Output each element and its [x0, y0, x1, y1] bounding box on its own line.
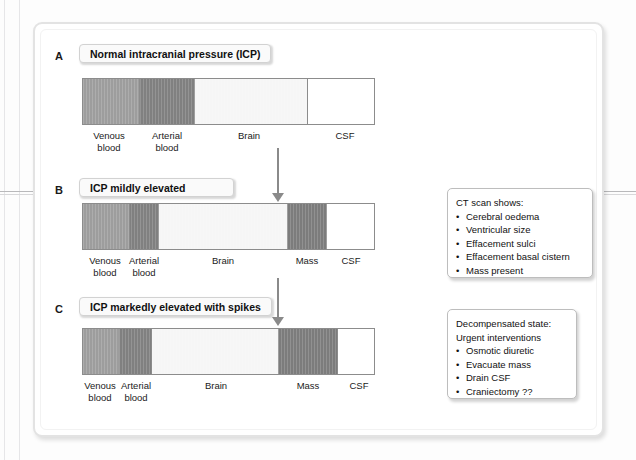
segment-csf-b	[326, 204, 374, 249]
segment-csf-c	[337, 329, 374, 374]
note-box-ct-findings: CT scan shows: Cerebral oedema Ventricul…	[447, 188, 593, 278]
segment-mass-b	[287, 204, 327, 249]
segment-label-csf-c: CSF	[350, 380, 369, 392]
note-box-decompensated-management: Decompensated state: Urgent intervention…	[447, 309, 577, 399]
arrow-head-icon	[272, 317, 284, 326]
arrow-head-icon	[272, 193, 284, 202]
note-line: Urgent interventions	[456, 331, 567, 345]
segment-label-venous-b: Venous blood	[89, 255, 121, 278]
note-line: Effacement basal cistern	[456, 250, 583, 264]
panel-title-a: Normal intracranial pressure (ICP)	[79, 44, 271, 63]
panel-letter-a: A	[55, 50, 63, 62]
panel-title-b: ICP mildly elevated	[79, 178, 234, 197]
segment-venous-a	[83, 79, 139, 124]
compartment-bar-c	[82, 328, 375, 375]
note-line: CT scan shows:	[456, 196, 583, 210]
panel-letter-c: C	[55, 303, 63, 315]
segment-arterial-b	[129, 204, 159, 249]
segment-arterial-a	[139, 79, 194, 124]
scan-artifact-line	[4, 0, 5, 460]
arrow-b-to-c	[272, 278, 284, 326]
panel-letter-b: B	[55, 184, 63, 196]
note-line: Ventricular size	[456, 223, 583, 237]
segment-brain-c	[151, 329, 278, 374]
panel-title-c: ICP markedly elevated with spikes	[79, 297, 272, 316]
note-line: Osmotic diuretic	[456, 344, 567, 358]
segment-label-arterial-b: Arterial blood	[129, 255, 159, 278]
compartment-bar-b	[82, 203, 375, 250]
segment-venous-b	[83, 204, 129, 249]
segment-label-mass-c: Mass	[297, 380, 320, 392]
segment-csf-a	[307, 79, 374, 124]
note-line: Cerebral oedema	[456, 210, 583, 224]
segment-label-mass-b: Mass	[296, 255, 319, 267]
segment-label-brain-b: Brain	[212, 255, 234, 267]
segment-label-venous-c: Venous blood	[84, 380, 116, 403]
note-line: Craniectomy ??	[456, 385, 567, 399]
arrow-shaft	[277, 278, 279, 318]
segment-label-venous-a: Venous blood	[93, 130, 125, 153]
segment-label-arterial-a: Arterial blood	[152, 130, 182, 153]
arrow-shaft	[277, 148, 279, 194]
segment-label-arterial-c: Arterial blood	[121, 380, 151, 403]
note-line: Drain CSF	[456, 371, 567, 385]
note-line: Evacuate mass	[456, 358, 567, 372]
segment-mass-c	[278, 329, 338, 374]
note-line: Mass present	[456, 264, 583, 278]
note-line: Effacement sulci	[456, 237, 583, 251]
segment-brain-a	[194, 79, 307, 124]
segment-label-csf-b: CSF	[342, 255, 361, 267]
segment-label-brain-c: Brain	[205, 380, 227, 392]
segment-label-csf-a: CSF	[336, 130, 355, 142]
compartment-bar-a	[82, 78, 375, 125]
arrow-a-to-b	[272, 148, 284, 202]
segment-venous-c	[83, 329, 119, 374]
segment-label-brain-a: Brain	[238, 130, 260, 142]
note-line: Decompensated state:	[456, 317, 567, 331]
segment-brain-b	[158, 204, 286, 249]
segment-arterial-c	[119, 329, 151, 374]
scan-artifact-line	[19, 0, 20, 460]
